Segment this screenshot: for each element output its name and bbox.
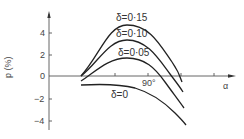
- curve-label-delta-0.10: δ=0·10: [116, 29, 147, 39]
- x-axis: [49, 73, 232, 76]
- y-axis-arrow-icon: [47, 11, 50, 18]
- x-axis-arrow-icon: [228, 74, 236, 77]
- curve-delta-0.05: [81, 58, 184, 108]
- y-tick-0: 0: [40, 72, 45, 81]
- x-axis-label: α: [223, 82, 228, 91]
- curves: [81, 25, 186, 125]
- y-tick-2: 2: [40, 51, 45, 60]
- y-axis: [49, 14, 52, 130]
- x-tick-90: 90°: [142, 79, 156, 88]
- y-tick-4: 4: [40, 29, 45, 38]
- curve-delta-0: [81, 84, 186, 125]
- y-tick-minus-4: −4: [34, 117, 44, 126]
- curve-label-delta-0.15: δ=0·15: [116, 13, 147, 23]
- y-tick-minus-2: −2: [34, 95, 44, 104]
- curve-label-delta-0: δ=0: [111, 90, 128, 100]
- y-axis-label: p (%): [3, 56, 13, 78]
- curve-label-delta-0.05: δ=0·05: [118, 48, 149, 58]
